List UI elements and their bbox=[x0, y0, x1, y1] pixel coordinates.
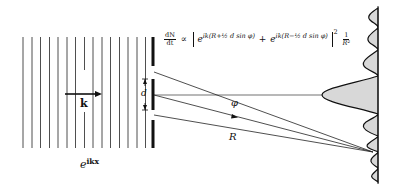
plus-sign: + bbox=[259, 34, 267, 44]
term1-exponent: ik(R+½ d sin φ) bbox=[203, 32, 255, 40]
distance-factor: 1 R² bbox=[343, 32, 351, 47]
distance-label: R bbox=[229, 132, 237, 142]
factor-denominator: R² bbox=[343, 40, 351, 47]
plane-wave-label: eikx bbox=[80, 158, 99, 170]
barrier bbox=[152, 37, 155, 148]
angle-label: φ bbox=[231, 98, 238, 108]
slit-separation-label: d bbox=[141, 89, 147, 98]
plane-wave-exponent: ikx bbox=[87, 157, 100, 166]
abs-left-bar bbox=[193, 32, 194, 47]
term2-exponent: ik(R−½ d sin φ) bbox=[276, 32, 328, 40]
abs-right-bar bbox=[332, 32, 333, 47]
proportional-symbol: ∝ bbox=[181, 34, 187, 44]
wave-vector-label: k bbox=[80, 98, 88, 109]
rays bbox=[154, 72, 373, 152]
wavefronts bbox=[23, 37, 146, 148]
intensity-formula: dN dt ∝ eik(R+½ d sin φ) + eik(R−½ d sin… bbox=[164, 29, 350, 47]
square-exponent: 2 bbox=[334, 28, 338, 36]
rate-denominator: dt bbox=[167, 40, 174, 47]
rate-fraction: dN dt bbox=[164, 32, 176, 47]
double-slit-diagram: k eikx d φ R dN dt ∝ eik(R+½ d sin φ) + … bbox=[0, 0, 395, 189]
